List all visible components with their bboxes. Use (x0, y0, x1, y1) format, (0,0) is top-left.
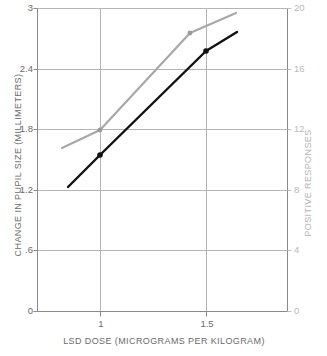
y-axis-title-left: CHANGE IN PUPIL SIZE (MILLIMETERS) (13, 65, 23, 265)
series-marker-positive-responses (188, 31, 193, 36)
y2tick-label-20: 20 (294, 2, 327, 13)
series-marker-pupil-size (203, 48, 209, 54)
y2tick-label-16: 16 (294, 63, 327, 74)
xtick-label-1.5: 1.5 (187, 318, 227, 329)
left-tick-marks (34, 9, 38, 312)
vertical-gridlines (101, 9, 207, 312)
xtick-label-1: 1 (81, 318, 121, 329)
y-axis-title-right: POSITIVE RESPONSES (303, 93, 313, 273)
x-axis-title: LSD DOSE (MICROGRAMS PER KILOGRAM) (28, 336, 300, 346)
chart-container: 3 2.4 1.8 1.2 .6 0 20 16 12 8 4 0 1 1.5 … (0, 0, 327, 356)
y2tick-label-0: 0 (294, 305, 327, 316)
ytick-label-3: 3 (0, 2, 33, 13)
axis-frame (38, 9, 288, 312)
series-marker-positive-responses (98, 128, 103, 133)
series-marker-pupil-size (97, 152, 103, 158)
bottom-tick-marks (101, 312, 207, 317)
ytick-label-0: 0 (0, 305, 33, 316)
chart-plot-area (0, 0, 327, 356)
right-tick-marks (288, 9, 292, 312)
series-line-pupil-size (68, 32, 237, 187)
horizontal-gridlines (38, 9, 288, 251)
series-line-positive-responses (62, 13, 236, 148)
